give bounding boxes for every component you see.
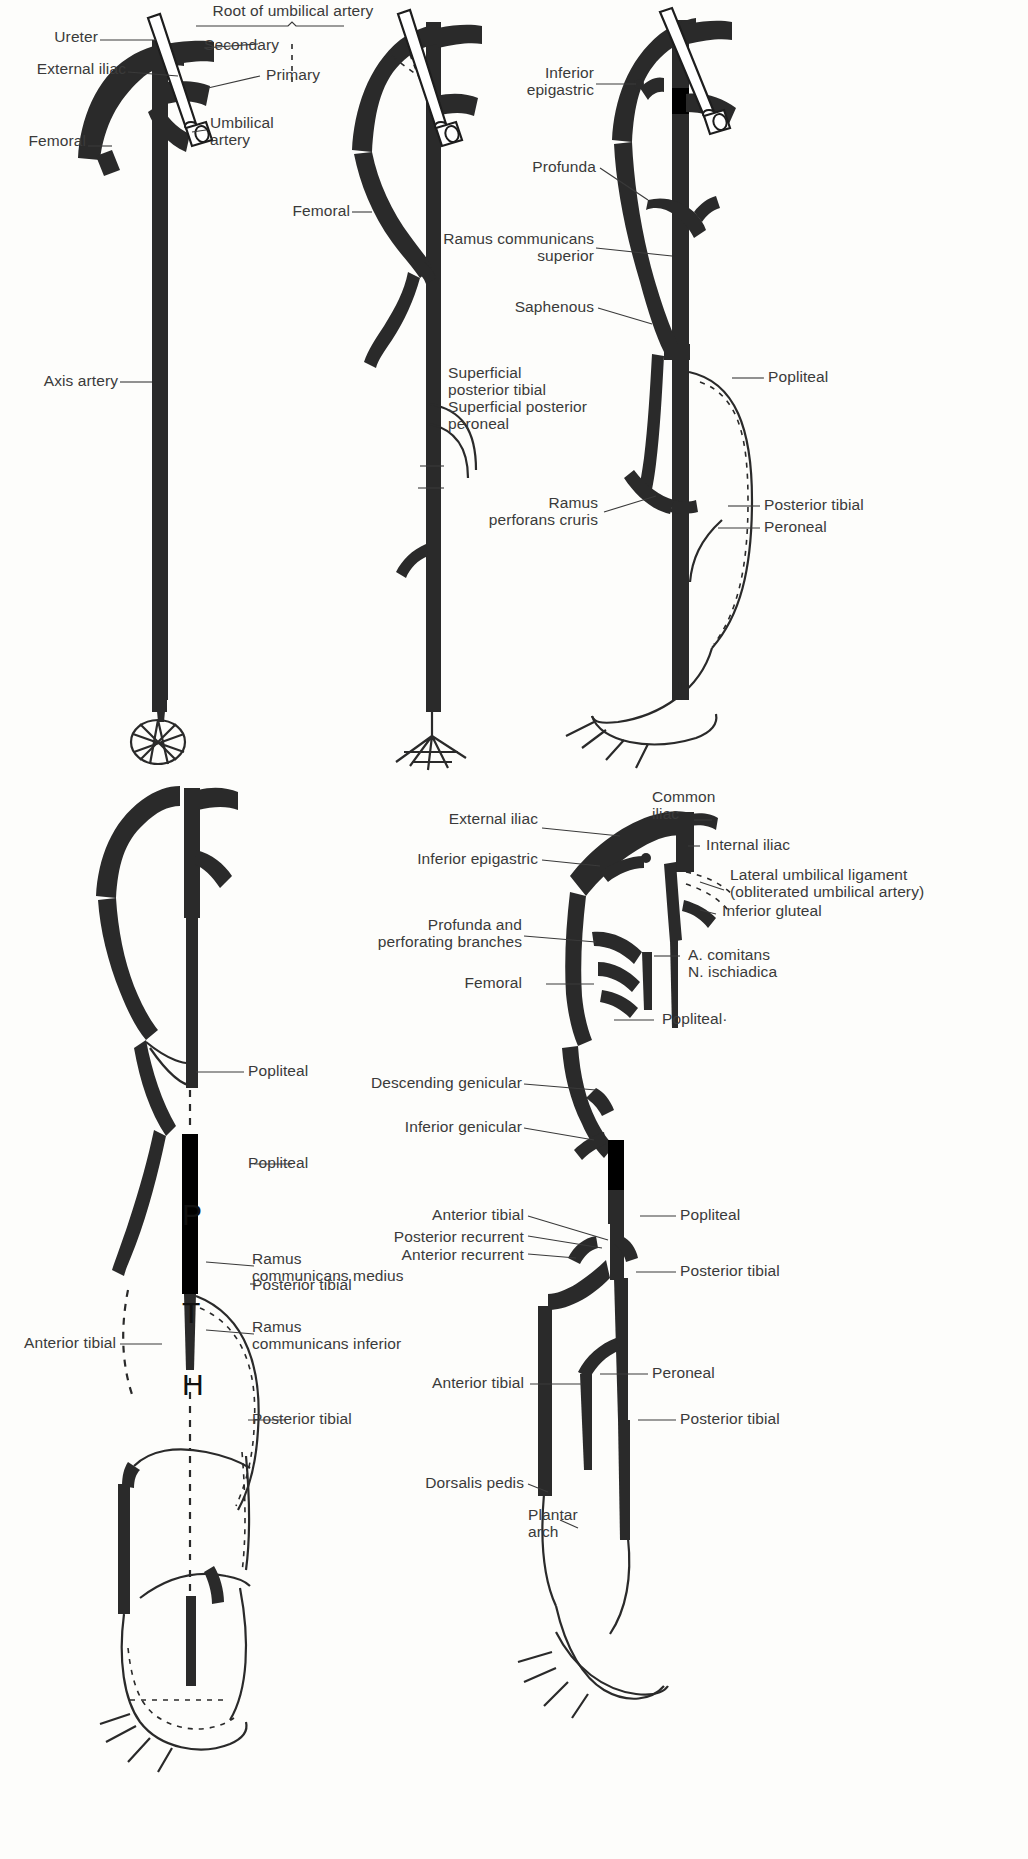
label-superficial-posterior-tibial: Superficial posterior tibial [448, 364, 546, 399]
panel-4-vessels [96, 786, 259, 1772]
label-dorsalis-pedis: Dorsalis pedis [390, 1474, 524, 1491]
label-primary: Primary [266, 66, 320, 83]
label-descending-genicular: Descending genicular [370, 1074, 522, 1091]
label-root-of-umbilical-artery: Root of umbilical artery [196, 2, 390, 19]
label-lateral-umbilical-ligament: Lateral umbilical ligament (obliterated … [730, 866, 924, 901]
label-inferior-epigastric: Inferior epigastric [440, 64, 594, 99]
label-ramus-perforans-cruris: Ramus perforans cruris [420, 494, 598, 529]
label-anterior-recurrent: Anterior recurrent [378, 1246, 524, 1263]
label-umbilical-artery: Umbilical artery [210, 114, 274, 149]
label-ramus-communicans-inferior: Ramus communicans inferior [252, 1318, 401, 1353]
label-posterior-recurrent: Posterior recurrent [372, 1228, 524, 1245]
label-inferior-gluteal: Inferior gluteal [722, 902, 822, 919]
label-anterior-tibial-5-lower: Anterior tibial [398, 1374, 524, 1391]
label-inferior-epigastric-5: Inferior epigastric [380, 850, 538, 867]
label-secondary: Secondary [204, 36, 279, 53]
label-femoral-2: Femoral [250, 202, 350, 219]
label-posterior-tibial-4-upper: Posterior tibial [252, 1276, 352, 1293]
label-common-iliac: Common iliac [652, 788, 715, 823]
label-popliteal-4-lower: Popliteal [248, 1154, 308, 1171]
label-profunda-and-perforating: Profunda and perforating branches [360, 916, 522, 951]
label-femoral: Femoral [0, 132, 86, 149]
label-anterior-tibial-5-upper: Anterior tibial [402, 1206, 524, 1223]
label-anterior-tibial-4: Anterior tibial [0, 1334, 116, 1351]
label-popliteal-4-upper: Popliteal [248, 1062, 308, 1079]
label-popliteal-5-right: Popliteal [680, 1206, 740, 1223]
label-external-iliac: External iliac [0, 60, 126, 77]
label-posterior-tibial-5-right: Posterior tibial [680, 1262, 780, 1279]
letter-t: T [182, 1296, 200, 1330]
label-ureter: Ureter [0, 28, 98, 45]
label-axis-artery: Axis artery [0, 372, 118, 389]
anatomical-plate: Ureter External iliac Femoral Axis arter… [0, 0, 1028, 1859]
label-ramus-communicans-superior: Ramus communicans superior [400, 230, 594, 265]
label-posterior-tibial-5-lower: Posterior tibial [680, 1410, 780, 1427]
label-saphenous: Saphenous [440, 298, 594, 315]
label-posterior-tibial-3: Posterior tibial [764, 496, 864, 513]
label-popliteal-3: Popliteal [768, 368, 828, 385]
label-peroneal-3: Peroneal [764, 518, 827, 535]
label-femoral-5: Femoral [400, 974, 522, 991]
panel-3-vessels [566, 8, 752, 768]
letter-p: P [182, 1198, 202, 1232]
label-plantar-arch: Plantar arch [528, 1506, 578, 1541]
label-peroneal-5: Peroneal [652, 1364, 715, 1381]
label-superficial-posterior-peroneal: Superficial posterior peroneal [448, 398, 587, 433]
label-external-iliac-5: External iliac [398, 810, 538, 827]
label-inferior-genicular: Inferior genicular [380, 1118, 522, 1135]
label-profunda: Profunda [440, 158, 596, 175]
label-a-comitans-n-ischiadica: A. comitans N. ischiadica [688, 946, 777, 981]
label-posterior-tibial-4-lower: Posterior tibial [252, 1410, 352, 1427]
label-popliteal-5-top: Popliteal· [662, 1010, 728, 1027]
letter-h: H [182, 1368, 204, 1402]
label-internal-iliac: Internal iliac [706, 836, 790, 853]
